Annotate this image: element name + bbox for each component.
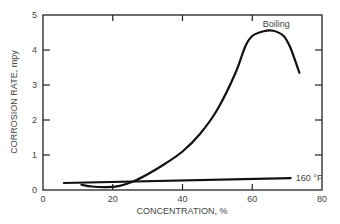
y-tick-label: 5 [32,10,37,20]
y-tick-label: 1 [32,150,37,160]
y-axis-label: CORROSION RATE, mpy [9,50,19,154]
y-tick-label: 0 [32,185,37,195]
x-tick-label: 40 [177,194,187,204]
chart-svg: 020406080012345 Boiling160 °F CONCENTRAT… [0,0,340,224]
axis-ticks: 020406080012345 [32,10,327,204]
y-tick-label: 4 [32,45,37,55]
corrosion-rate-chart: 020406080012345 Boiling160 °F CONCENTRAT… [0,0,340,224]
x-tick-label: 80 [317,194,327,204]
y-tick-label: 2 [32,115,37,125]
series-boiling-line [81,30,299,187]
series-160-f-line [64,178,291,183]
annotations: Boiling160 °F [263,19,323,183]
x-tick-label: 60 [247,194,257,204]
data-series [64,30,299,187]
x-axis-label: CONCENTRATION, % [137,206,228,216]
plot-border [43,15,322,190]
x-tick-label: 20 [108,194,118,204]
y-tick-label: 3 [32,80,37,90]
x-tick-label: 0 [40,194,45,204]
annotation-160-f: 160 °F [296,173,323,183]
plot-frame [43,15,322,190]
annotation-boiling: Boiling [263,19,290,29]
